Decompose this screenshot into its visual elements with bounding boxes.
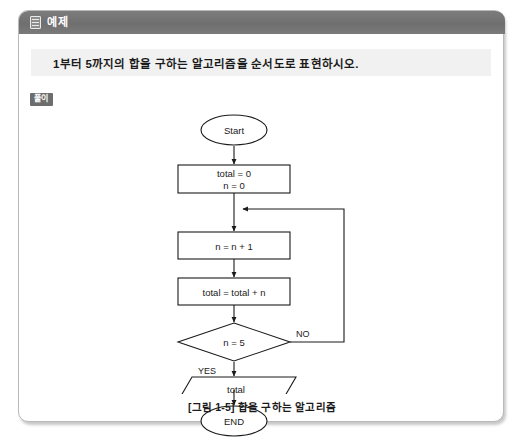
node-accum-label: total = total + n bbox=[203, 287, 266, 298]
question-text: 1부터 5까지의 합을 구하는 알고리즘을 순서도로 표현하시오. bbox=[53, 55, 359, 71]
node-end-label: END bbox=[224, 416, 244, 427]
figure-caption: [그림 1-5] 합을 구하는 알고리즘 bbox=[19, 399, 505, 414]
edge-cond-no-loop bbox=[243, 209, 344, 342]
node-start-label: Start bbox=[224, 125, 244, 136]
solution-badge: 풀이 bbox=[30, 93, 53, 106]
flowchart-svg: Start total = 0 n = 0 n = n + 1 total = … bbox=[112, 109, 412, 394]
node-condition-label: n = 5 bbox=[223, 337, 244, 348]
document-icon bbox=[30, 16, 41, 29]
flowchart: Start total = 0 n = 0 n = n + 1 total = … bbox=[19, 109, 505, 394]
node-init-label-line1: total = 0 bbox=[217, 168, 251, 179]
node-init-label-line2: n = 0 bbox=[223, 180, 244, 191]
panel-title: 예제 bbox=[47, 17, 68, 28]
screenshot-root: 예제 1부터 5까지의 합을 구하는 알고리즘을 순서도로 표현하시오. 풀이 bbox=[0, 0, 522, 442]
panel-header: 예제 bbox=[19, 11, 505, 34]
question-band: 1부터 5까지의 합을 구하는 알고리즘을 순서도로 표현하시오. bbox=[31, 49, 491, 76]
edge-label-no: NO bbox=[296, 329, 310, 339]
edge-label-yes: YES bbox=[198, 366, 216, 376]
example-panel: 예제 1부터 5까지의 합을 구하는 알고리즘을 순서도로 표현하시오. 풀이 bbox=[18, 10, 504, 422]
node-output-label: total bbox=[227, 384, 245, 394]
node-incr-label: n = n + 1 bbox=[215, 241, 253, 252]
